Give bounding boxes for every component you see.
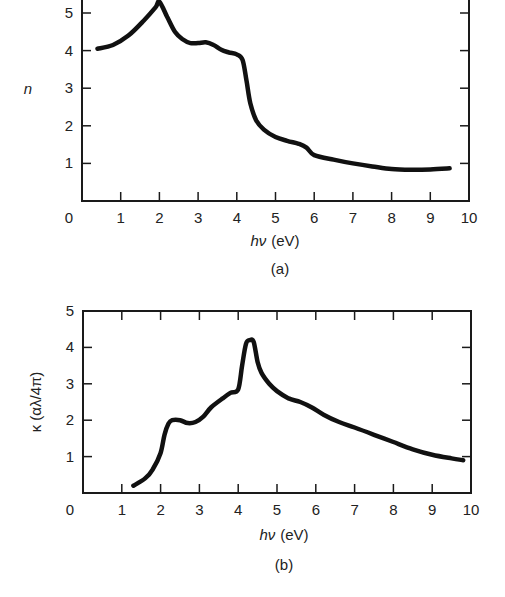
x-tick-label: 0 <box>66 501 74 518</box>
x-tick-label: 6 <box>312 501 320 518</box>
x-tick-label: 8 <box>389 501 397 518</box>
x-tick-label: 1 <box>117 209 125 226</box>
chart-a-x-var: hν <box>250 232 266 249</box>
x-tick-label: 5 <box>271 209 279 226</box>
x-tick-label: 4 <box>234 501 242 518</box>
x-tick-label: 1 <box>118 501 126 518</box>
x-tick-label: 2 <box>155 209 163 226</box>
chart-b-extinction-coefficient: 01234567891012345 κ (αλ/4π) hν(eV) (b) <box>27 302 479 573</box>
chart-b-ticks <box>83 311 471 493</box>
y-tick-label: 1 <box>65 154 73 171</box>
x-tick-label: 8 <box>387 209 395 226</box>
y-tick-label: 5 <box>65 4 73 21</box>
x-tick-label: 7 <box>350 501 358 518</box>
chart-a-y-axis-title: n <box>24 80 32 97</box>
chart-b-curve-kappa <box>133 340 463 486</box>
y-tick-label: 3 <box>65 79 73 96</box>
y-tick-label: 2 <box>65 117 73 134</box>
x-tick-label: 3 <box>194 209 202 226</box>
y-tick-label: 3 <box>66 375 74 392</box>
chart-b-y-axis-title: κ (αλ/4π) <box>27 372 44 433</box>
chart-a-caption: (a) <box>271 260 289 277</box>
chart-b-frame <box>83 311 471 493</box>
y-tick-label: 1 <box>66 448 74 465</box>
x-tick-label: 5 <box>273 501 281 518</box>
y-tick-label: 4 <box>66 338 74 355</box>
x-tick-label: 9 <box>426 209 434 226</box>
chart-b-tick-labels: 01234567891012345 <box>66 302 480 518</box>
plot-frame <box>83 311 471 493</box>
chart-a-x-unit: (eV) <box>271 232 299 249</box>
x-tick-label: 0 <box>65 209 73 226</box>
chart-a-x-axis-title: hν(eV) <box>250 232 299 249</box>
y-tick-label: 4 <box>65 42 73 59</box>
y-tick-label: 2 <box>66 411 74 428</box>
figure: 01234567891012345 n hν(eV) (a) 012345678… <box>0 0 505 597</box>
x-tick-label: 6 <box>310 209 318 226</box>
chart-a-refractive-index: 01234567891012345 n hν(eV) (a) <box>24 0 478 277</box>
chart-a-ticks <box>82 13 469 201</box>
chart-b-x-unit: (eV) <box>280 526 308 543</box>
x-tick-label: 4 <box>233 209 241 226</box>
x-tick-label: 10 <box>463 501 480 518</box>
chart-b-x-axis-title: hν(eV) <box>259 526 308 543</box>
x-tick-label: 2 <box>156 501 164 518</box>
chart-b-x-var: hν <box>259 526 275 543</box>
chart-a-curve-n <box>98 1 450 169</box>
x-tick-label: 10 <box>461 209 478 226</box>
x-tick-label: 3 <box>195 501 203 518</box>
y-tick-label: 5 <box>66 302 74 319</box>
chart-b-caption: (b) <box>275 556 293 573</box>
x-tick-label: 7 <box>349 209 357 226</box>
x-tick-label: 9 <box>428 501 436 518</box>
